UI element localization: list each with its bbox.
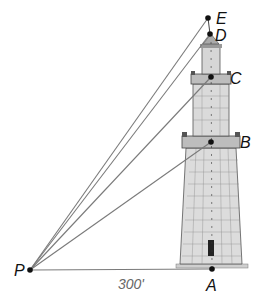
label-D: D — [215, 27, 227, 44]
label-E: E — [216, 10, 227, 27]
distance-label: 300' — [118, 276, 145, 292]
label-B: B — [240, 134, 251, 151]
point-P — [27, 267, 33, 273]
point-D — [207, 31, 213, 37]
label-P: P — [14, 262, 25, 279]
point-C — [208, 74, 214, 80]
label-C: C — [230, 70, 242, 87]
point-E — [205, 15, 211, 21]
lighthouse-diagram: P A B C D E 300' — [0, 0, 264, 303]
label-A: A — [205, 277, 217, 294]
point-A — [209, 266, 215, 272]
point-B — [208, 139, 214, 145]
segment-PA — [30, 269, 212, 270]
